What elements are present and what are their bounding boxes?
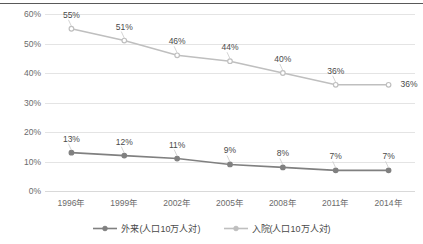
data-point-label: 7%	[330, 152, 342, 161]
x-axis-tick-label: 2014年	[375, 196, 403, 208]
x-axis-tick-label: 1999年	[110, 196, 138, 208]
data-point-label: 55%	[63, 11, 80, 20]
data-point-marker	[281, 165, 286, 170]
legend-item[interactable]: 入院(人口10万人対)	[223, 222, 331, 235]
data-point-marker	[122, 153, 127, 158]
data-point-marker	[386, 83, 391, 88]
data-point-label: 12%	[116, 138, 133, 147]
label-leader-line	[68, 144, 71, 151]
data-point-label: 51%	[116, 23, 133, 32]
chart-legend: 外来(人口10万人対)入院(人口10万人対)	[0, 222, 423, 235]
data-point-label: 44%	[221, 43, 238, 52]
data-point-label: 46%	[169, 37, 186, 46]
y-axis-tick-label: 0%	[5, 187, 41, 196]
gridline	[45, 191, 415, 192]
series-line	[71, 29, 388, 85]
x-axis-tick-label: 1996年	[57, 196, 85, 208]
legend-item[interactable]: 外来(人口10万人対)	[92, 222, 200, 235]
data-point-label: 11%	[169, 141, 185, 150]
data-point-marker	[175, 53, 180, 58]
data-point-label: 40%	[274, 55, 291, 64]
data-point-label: 36%	[401, 80, 418, 89]
data-point-label: 36%	[327, 67, 344, 76]
y-axis-tick-label: 10%	[5, 157, 41, 166]
data-point-marker	[228, 162, 233, 167]
series-layer	[45, 14, 415, 191]
y-axis-tick-label: 50%	[5, 39, 41, 48]
x-axis-tick-label: 2008年	[269, 196, 297, 208]
data-point-marker	[122, 38, 127, 43]
y-axis-tick-label: 30%	[5, 98, 41, 107]
legend-label: 外来(人口10万人対)	[121, 222, 200, 235]
label-leader-line	[174, 46, 177, 53]
y-axis-tick-label: 40%	[5, 69, 41, 78]
data-point-marker	[386, 168, 391, 173]
x-axis-tick-label: 2005年	[216, 196, 244, 208]
data-point-label: 13%	[63, 135, 80, 144]
data-point-marker	[333, 83, 338, 88]
data-point-marker	[333, 168, 338, 173]
label-leader-line	[227, 155, 230, 162]
data-point-marker	[281, 71, 286, 76]
data-point-marker	[228, 59, 233, 64]
label-leader-line	[121, 147, 124, 154]
label-leader-line	[68, 20, 71, 27]
label-leader-line	[227, 52, 230, 59]
chart-top-border	[0, 3, 423, 4]
label-leader-line	[386, 161, 389, 168]
y-axis-tick-label: 20%	[5, 128, 41, 137]
label-leader-line	[333, 76, 336, 83]
data-point-label: 9%	[224, 146, 236, 155]
x-axis-tick-label: 2011年	[322, 196, 349, 208]
x-axis-tick-label: 2002年	[163, 196, 191, 208]
y-axis-tick-label: 60%	[5, 10, 41, 19]
legend-label: 入院(人口10万人対)	[252, 222, 331, 235]
label-leader-line	[121, 32, 124, 39]
data-point-marker	[69, 150, 74, 155]
legend-marker-icon	[92, 224, 118, 233]
data-point-marker	[175, 156, 180, 161]
data-point-marker	[69, 26, 74, 31]
data-point-label: 8%	[277, 149, 289, 158]
data-point-label: 7%	[382, 152, 394, 161]
plot-area: 55%51%46%44%40%36%36%13%12%11%9%8%7%7%	[45, 14, 415, 191]
label-leader-line	[280, 64, 283, 71]
line-chart: 55%51%46%44%40%36%36%13%12%11%9%8%7%7% 0…	[0, 0, 423, 244]
label-leader-line	[174, 150, 177, 157]
label-leader-line	[333, 161, 336, 168]
legend-marker-icon	[223, 224, 249, 233]
label-leader-line	[280, 158, 283, 165]
